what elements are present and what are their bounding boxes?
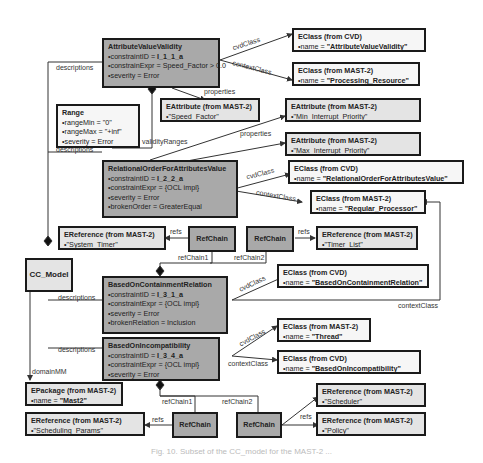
constraint-attr: constraintID = I_1_1_a [108,52,214,62]
constraint-attr: brokenRelation = Inclusion [108,318,222,328]
element-title: EAttribute (from MAST-2) [291,136,415,146]
element-box[interactable]: EClass (from MAST-2) name = "Regular_Pro… [310,190,426,214]
constraint-attr: constraintID = I_3_1_a [108,290,222,300]
constraint-relational-order[interactable]: RelationalOrderForAttributesValue constr… [102,160,238,218]
element-box[interactable]: EClass (from CVD) name = "RelationalOrde… [288,160,464,184]
label-properties: properties [240,130,271,137]
label-refs: refs [170,228,182,235]
element-title: EClass (from CVD) [283,354,415,364]
refchain-box[interactable]: RefChain [236,412,282,438]
element-box[interactable]: EAttribute (from MAST-2) "Speed_Factor" [160,98,260,122]
refchain-box[interactable]: RefChain [246,226,294,252]
element-box[interactable]: EAttribute (from MAST-2) "Max_Interrupt_… [285,132,421,156]
element-attr: "Timer_List" [322,240,412,250]
constraint-title: BasedOnContainmentRelation [108,280,222,290]
element-title: EAttribute (from MAST-2) [291,102,415,112]
constraint-attr: constraintExpr = {OCL impl} [108,360,214,370]
element-attr: name = "Thread" [283,332,365,342]
figure-caption: Fig. 10. Subset of the CC_model for the … [0,447,483,456]
label-descriptions: descriptions [56,146,93,153]
label-descriptions: descriptions [58,346,95,353]
element-title: EClass (from CVD) [283,268,423,278]
element-box[interactable]: EReference (from MAST-2) "Policy" [316,412,426,436]
refchain-label: RefChain [254,234,286,244]
element-attr: "Scheduling_Params" [31,426,139,436]
element-attr: "Speed_Factor" [166,112,254,122]
element-box[interactable]: EClass (from MAST-2) name = "Processing_… [292,62,420,86]
label-refchain2: refChain2 [222,398,252,405]
label-refchain1: refChain1 [178,254,208,261]
constraint-attr: severity = Error [108,71,214,81]
range-box[interactable]: Range rangeMin = "0" rangeMax = "+inf" s… [56,104,140,148]
constraint-attr: severity = Error [108,309,222,319]
element-attr: "Scheduler" [322,397,420,407]
constraint-attr: severity = Error [108,193,232,203]
constraint-containment-relation[interactable]: BasedOnContainmentRelation constraintID … [102,276,228,334]
label-refchain1: refChain1 [162,398,192,405]
constraint-attr: constraintExpr = {OCL impl} [108,183,232,193]
element-box[interactable]: EClass (from CVD) name = "AttributeValue… [292,28,426,52]
element-box[interactable]: EReference (from MAST-2) "Scheduling_Par… [25,412,145,436]
element-box[interactable]: EReference (from MAST-2) "Timer_List" [316,226,418,250]
constraint-attr: constraintID = I_2_2_a [108,174,232,184]
constraint-incompatibility[interactable]: BasedOnIncompatibility constraintID = I_… [102,337,220,381]
label-refs: refs [300,413,312,420]
element-title: EReference (from MAST-2) [322,387,420,397]
element-attr: name = "Regular_Processor" [316,204,420,214]
element-title: EClass (from MAST-2) [316,194,420,204]
constraint-attribute-value-validity[interactable]: AttributeValueValidity constraintID = I_… [102,38,220,88]
element-title: EClass (from CVD) [298,32,420,42]
element-title: EClass (from MAST-2) [298,66,414,76]
element-title: EReference (from MAST-2) [64,230,160,240]
label-contextclass: contextClass [228,360,268,367]
element-attr: name = "BasedOnContainmentRelation" [283,278,423,288]
element-title: EClass (from MAST-2) [283,322,365,332]
element-title: EClass (from CVD) [294,164,458,174]
constraint-attr: brokenOrder = GreaterEqual [108,202,232,212]
element-attr: name = "BasedOnIncompatibility" [283,364,415,374]
label-refs: refs [298,228,310,235]
range-attr: rangeMax = "+inf" [62,127,134,137]
label-descriptions: descriptions [56,64,93,71]
element-title: EReference (from MAST-2) [322,416,420,426]
label-descriptions: descriptions [58,294,95,301]
range-title: Range [62,108,134,118]
element-title: EPackage (from MAST-2) [31,386,117,396]
constraint-title: RelationalOrderForAttributesValue [108,164,232,174]
label-refchain2: refChain2 [234,254,264,261]
constraint-attr: constraintExpr = {OCL impl} [108,299,222,309]
element-attr: "System_Timer" [64,240,160,250]
range-attr: severity = Error [62,137,134,147]
constraint-title: BasedOnIncompatibility [108,341,214,351]
element-attr: "Min_Interrupt_Priority" [291,112,415,122]
label-validityranges: validityRanges [142,138,188,145]
label-domainmm: domainMM [32,368,67,375]
element-box[interactable]: EClass (from CVD) name = "BasedOnContain… [277,264,429,288]
element-title: EReference (from MAST-2) [322,230,412,240]
element-box[interactable]: EPackage (from MAST-2) name = "Mast2" [25,382,123,406]
element-attr: "Max_Interrupt_Priority" [291,146,415,156]
constraint-title: AttributeValueValidity [108,42,214,52]
cc-model-box[interactable]: CC_Model [25,258,73,292]
refchain-label: RefChain [179,420,211,430]
refchain-box[interactable]: RefChain [188,226,236,252]
refchain-label: RefChain [196,234,228,244]
label-properties: properties [204,88,235,95]
constraint-attr: severity = Error [108,370,214,380]
element-box[interactable]: EClass (from MAST-2) name = "Thread" [277,318,371,342]
element-title: EReference (from MAST-2) [31,416,139,426]
constraint-attr: constraintID = I_3_4_a [108,351,214,361]
refchain-label: RefChain [243,420,275,430]
element-box[interactable]: EReference (from MAST-2) "System_Timer" [58,226,166,250]
label-refs: refs [152,416,164,423]
refchain-box[interactable]: RefChain [172,412,218,438]
element-box[interactable]: EAttribute (from MAST-2) "Min_Interrupt_… [285,98,421,122]
element-box[interactable]: EClass (from CVD) name = "BasedOnIncompa… [277,350,421,374]
constraint-attr: constrainExpr = Speed_Factor > 0.0 [108,61,214,71]
element-attr: name = "AttributeValueValidity" [298,42,420,52]
cc-model-label: CC_Model [29,270,68,280]
element-title: EAttribute (from MAST-2) [166,102,254,112]
element-attr: name = "RelationalOrderForAttributesValu… [294,174,458,184]
element-attr: "Policy" [322,426,420,436]
element-box[interactable]: EReference (from MAST-2) "Scheduler" [316,383,426,407]
